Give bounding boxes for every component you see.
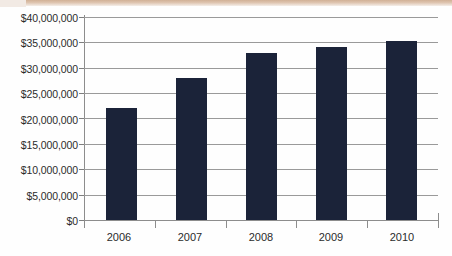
gridline-35m <box>84 42 438 43</box>
bar-chart-figure: $40,000,000 $35,000,000 $30,000,000 $25,… <box>0 0 452 256</box>
bar-2006 <box>106 108 137 220</box>
y-tick-label-15m: $15,000,000 <box>2 139 78 151</box>
x-axis-label-2007: 2007 <box>155 231 225 243</box>
x-tick-0 <box>84 221 85 228</box>
x-axis-label-2006: 2006 <box>84 231 154 243</box>
y-tick-label-5m: $5,000,000 <box>2 190 78 202</box>
y-tick-label-25m: $25,000,000 <box>2 88 78 100</box>
x-axis-label-2010: 2010 <box>367 231 437 243</box>
x-tick-3 <box>296 221 297 228</box>
x-axis-label-2009: 2009 <box>296 231 366 243</box>
y-tick-label-10m: $10,000,000 <box>2 164 78 176</box>
y-tick-label-0: $0 <box>2 215 78 227</box>
x-axis-line <box>84 220 439 221</box>
x-axis-label-2008: 2008 <box>226 231 296 243</box>
y-tick-label-20m: $20,000,000 <box>2 114 78 126</box>
x-tick-4 <box>367 221 368 228</box>
y-axis-labels: $40,000,000 $35,000,000 $30,000,000 $25,… <box>0 0 78 256</box>
plot-area <box>84 17 438 220</box>
x-axis-end-cap <box>438 213 439 221</box>
bar-2008 <box>246 53 277 220</box>
bar-2010 <box>386 41 417 220</box>
x-tick-1 <box>155 221 156 228</box>
gridline-40m <box>84 17 438 18</box>
x-tick-2 <box>226 221 227 228</box>
y-tick-label-35m: $35,000,000 <box>2 37 78 49</box>
bar-2007 <box>176 78 207 220</box>
bar-2009 <box>316 47 347 220</box>
y-tick-label-30m: $30,000,000 <box>2 63 78 75</box>
x-tick-5 <box>438 221 439 228</box>
y-tick-label-40m: $40,000,000 <box>2 12 78 24</box>
